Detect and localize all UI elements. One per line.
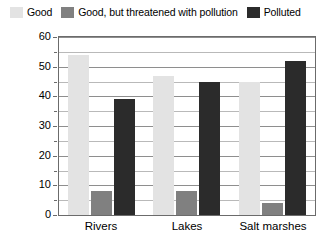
bar-chart: Good Good, but threatened with pollution… (0, 0, 324, 247)
bar-group (230, 37, 315, 215)
bar (262, 203, 283, 215)
y-axis-tick-mark (54, 171, 57, 172)
x-axis-category-label: Rivers (58, 219, 144, 241)
y-axis-tick-mark (54, 141, 57, 142)
y-axis-tick-mark (53, 96, 57, 97)
legend-swatch-good (10, 7, 23, 18)
y-axis-tick-label: 40 (1, 90, 51, 101)
legend-label-polluted: Polluted (264, 7, 301, 18)
y-axis-tick-mark (54, 82, 57, 83)
bar (239, 82, 260, 216)
y-axis: 0102030405060 (0, 36, 58, 218)
bars-layer (59, 37, 315, 215)
y-axis-tick-mark (53, 37, 57, 38)
y-axis-tick-mark (54, 111, 57, 112)
y-axis-tick-label: 60 (1, 31, 51, 42)
bar (68, 55, 89, 215)
y-axis-tick-label: 10 (1, 179, 51, 190)
legend-swatch-threatened (61, 7, 74, 18)
y-axis-tick-mark (54, 200, 57, 201)
bar (285, 61, 306, 215)
legend-entry-polluted: Polluted (247, 7, 301, 18)
plot-area (58, 36, 316, 216)
y-axis-tick-label: 30 (1, 120, 51, 131)
bar-group (144, 37, 229, 215)
y-axis-tick-mark (53, 126, 57, 127)
bar (199, 82, 220, 216)
bar (153, 76, 174, 215)
y-axis-tick-mark (54, 52, 57, 53)
legend-label-good: Good (27, 7, 52, 18)
legend-swatch-polluted (247, 7, 260, 18)
chart-legend: Good Good, but threatened with pollution… (0, 3, 324, 21)
bar (114, 99, 135, 215)
x-axis-category-label: Lakes (144, 219, 230, 241)
x-axis-categories: RiversLakesSalt marshes (58, 219, 316, 241)
bar (176, 191, 197, 215)
legend-entry-good: Good (10, 7, 52, 18)
y-axis-tick-mark (53, 215, 57, 216)
y-axis-tick-mark (53, 67, 57, 68)
y-axis-tick-mark (53, 156, 57, 157)
y-axis-tick-label: 0 (1, 209, 51, 220)
y-axis-tick-label: 50 (1, 61, 51, 72)
x-axis-category-label: Salt marshes (230, 219, 316, 241)
legend-entry-threatened: Good, but threatened with pollution (61, 7, 237, 18)
y-axis-tick-label: 20 (1, 150, 51, 161)
y-axis-tick-mark (53, 185, 57, 186)
bar-group (59, 37, 144, 215)
bar (91, 191, 112, 215)
legend-label-threatened: Good, but threatened with pollution (78, 7, 237, 18)
